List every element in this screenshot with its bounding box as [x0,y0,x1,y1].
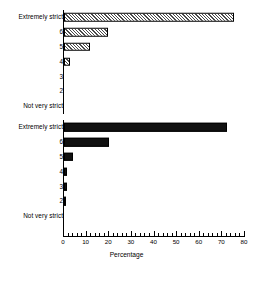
axis-tick [194,233,195,236]
axis-tick-label: 60 [195,239,202,245]
chart-row: 2 [0,194,253,209]
chart-row: Extremely strict [0,10,253,25]
axis-tick [135,233,136,236]
chart-row: 6 [0,135,253,150]
axis-tick-label: 40 [150,239,157,245]
axis-tick [113,233,114,236]
bar-track [64,138,245,147]
axis-tick [203,233,204,236]
axis-tick [154,231,155,236]
axis-tick-label: 20 [105,239,112,245]
axis-tick [108,231,109,236]
bar-bottom-3 [64,168,67,177]
axis-tick [230,233,231,236]
axis-tick [185,233,186,236]
axis-tick [104,233,105,236]
bar-track [64,28,245,37]
bar-track [64,123,245,132]
axis-tick [81,233,82,236]
bar-bottom-4 [64,182,67,191]
bar-top-3 [64,58,70,67]
chart-row: 3 [0,179,253,194]
bar-track [64,87,245,96]
chart-panel-bottom: Extremely strict 6 5 4 3 [0,120,253,234]
bar-bottom-5 [64,197,66,206]
axis-tick [95,233,96,236]
bar-track [64,212,245,221]
axis-tick [239,233,240,236]
bar-bottom-2 [64,153,73,162]
bar-top-2 [64,43,90,52]
axis-tick [99,233,100,236]
axis-tick-label: 70 [218,239,225,245]
bar-track [64,102,245,111]
bar-track [64,43,245,52]
axis-tick [90,233,91,236]
chart-row: 2 [0,84,253,99]
axis-tick [68,233,69,236]
x-axis-tick-labels: 01020304050607080 [63,239,245,248]
bar-track [64,72,245,81]
category-label: Not very strict [23,103,63,109]
x-axis-ticks [63,231,245,237]
chart-row: Not very strict [0,99,253,114]
axis-tick [72,233,73,236]
chart-row: 4 [0,164,253,179]
axis-tick [221,231,222,236]
axis-tick [163,233,164,236]
bar-track [64,153,245,162]
axis-tick [244,231,245,236]
chart-row: 5 [0,40,253,55]
x-axis-label: Percentage [0,252,253,259]
bar-bottom-0 [64,123,227,132]
axis-tick [190,233,191,236]
axis-tick [63,231,64,236]
axis-tick [217,233,218,236]
category-label: Not very strict [23,213,63,219]
axis-tick [212,233,213,236]
vertical-axis-bottom [63,120,64,236]
axis-tick [176,231,177,236]
axis-tick [122,233,123,236]
bar-chart-figure: Extremely strict 6 5 4 3 [0,0,253,303]
chart-panel-top: Extremely strict 6 5 4 3 [0,10,253,114]
category-label: Extremely strict [19,124,63,130]
axis-tick [226,233,227,236]
axis-tick [181,233,182,236]
axis-tick-label: 80 [241,239,248,245]
vertical-axis-top [63,10,64,114]
axis-tick [117,233,118,236]
axis-tick [208,233,209,236]
axis-tick [199,231,200,236]
axis-tick [77,233,78,236]
chart-row: Not very strict [0,209,253,224]
axis-tick [172,233,173,236]
chart-row: Extremely strict [0,120,253,135]
bar-track [64,168,245,177]
bar-track [64,58,245,67]
axis-tick-label: 50 [173,239,180,245]
axis-tick [86,231,87,236]
chart-row: 6 [0,25,253,40]
axis-tick [126,233,127,236]
bar-track [64,182,245,191]
bar-track [64,13,245,22]
axis-tick [131,231,132,236]
axis-tick-label: 30 [127,239,134,245]
axis-tick [140,233,141,236]
axis-tick [167,233,168,236]
bar-top-1 [64,28,108,37]
axis-tick [144,233,145,236]
bar-track [64,197,245,206]
bar-top-0 [64,13,234,22]
axis-tick [149,233,150,236]
axis-tick-label: 10 [82,239,89,245]
axis-tick-label: 0 [61,239,64,245]
chart-row: 4 [0,54,253,69]
chart-row: 5 [0,150,253,165]
category-label: Extremely strict [19,14,63,20]
chart-row: 3 [0,69,253,84]
axis-tick [158,233,159,236]
axis-tick [235,233,236,236]
bar-bottom-1 [64,138,109,147]
